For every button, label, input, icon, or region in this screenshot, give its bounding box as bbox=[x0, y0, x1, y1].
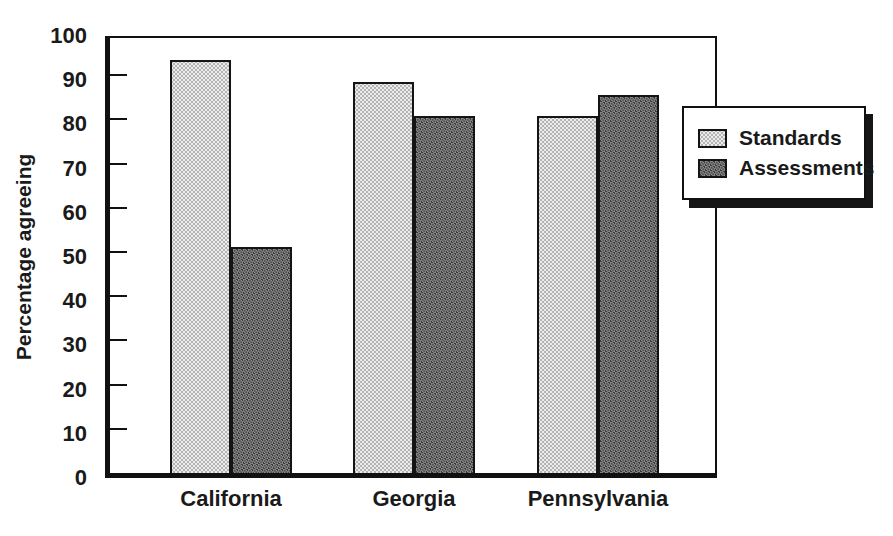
legend-label: Standards bbox=[739, 126, 842, 150]
y-tick-label: 20 bbox=[0, 378, 96, 402]
y-tick-label: 40 bbox=[0, 289, 96, 313]
x-category-label-pennsylvania: Pennsylvania bbox=[528, 486, 669, 512]
plot-area bbox=[105, 36, 717, 478]
legend-swatch-standards bbox=[698, 129, 727, 148]
legend-label: Assessments bbox=[739, 156, 874, 180]
x-axis-category-labels: CaliforniaGeorgiaPennsylvania bbox=[0, 486, 893, 516]
x-category-label-california: California bbox=[180, 486, 281, 512]
y-tick-label: 10 bbox=[0, 422, 96, 446]
y-tick-label: 80 bbox=[0, 112, 96, 136]
y-tick-mark bbox=[110, 428, 127, 430]
y-tick-label: 100 bbox=[0, 24, 96, 48]
y-tick-mark bbox=[110, 339, 127, 341]
bars-layer bbox=[110, 38, 715, 473]
bar-assessments-pennsylvania bbox=[598, 95, 659, 473]
y-tick-label: 90 bbox=[0, 68, 96, 92]
y-tick-label: 70 bbox=[0, 157, 96, 181]
y-tick-mark bbox=[110, 163, 127, 165]
y-tick-label: 60 bbox=[0, 201, 96, 225]
legend-item-assessments: Assessments bbox=[698, 156, 852, 180]
y-tick-mark bbox=[110, 74, 127, 76]
legend-item-standards: Standards bbox=[698, 126, 852, 150]
y-tick-label: 50 bbox=[0, 245, 96, 269]
bar-assessments-california bbox=[231, 247, 292, 473]
y-tick-mark bbox=[110, 384, 127, 386]
legend: StandardsAssessments bbox=[682, 106, 866, 200]
y-tick-label: 30 bbox=[0, 333, 96, 357]
legend-swatch-assessments bbox=[698, 159, 727, 178]
bar-assessments-georgia bbox=[414, 116, 475, 473]
bar-standards-georgia bbox=[353, 82, 414, 474]
bar-standards-california bbox=[170, 60, 231, 473]
y-tick-mark bbox=[110, 251, 127, 253]
y-tick-mark bbox=[110, 207, 127, 209]
y-axis-tick-labels: 0102030405060708090100 bbox=[0, 36, 96, 478]
x-category-label-georgia: Georgia bbox=[372, 486, 455, 512]
y-tick-mark bbox=[110, 118, 127, 120]
bar-standards-pennsylvania bbox=[537, 116, 598, 473]
y-tick-mark bbox=[110, 295, 127, 297]
bar-chart: Percentage agreeing 01020304050607080901… bbox=[0, 0, 893, 536]
